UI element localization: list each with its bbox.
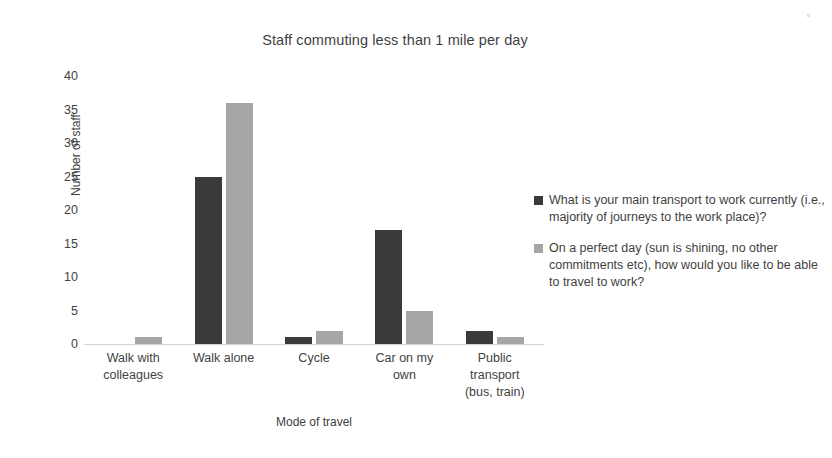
legend-item[interactable]: What is your main transport to work curr…: [534, 192, 826, 226]
x-axis-tick-line: (bus, train): [450, 384, 540, 401]
x-axis-tick-line: own: [359, 367, 449, 384]
legend-label: What is your main transport to work curr…: [549, 192, 826, 226]
bar-group: [269, 76, 359, 344]
y-axis-tick-25: 25: [44, 170, 78, 183]
x-axis-tick-label: Publictransport(bus, train): [450, 350, 540, 401]
y-axis-tick-30: 30: [44, 137, 78, 150]
bar: [466, 331, 493, 344]
bar: [497, 337, 524, 344]
chart-legend: What is your main transport to work curr…: [534, 192, 826, 305]
legend-item[interactable]: On a perfect day (sun is shining, no oth…: [534, 240, 826, 291]
bar: [135, 337, 162, 344]
x-axis-tick-line: transport: [450, 367, 540, 384]
bar: [226, 103, 253, 344]
y-axis-tick-5: 5: [44, 304, 78, 317]
y-axis-tick-35: 35: [44, 103, 78, 116]
x-axis-tick-line: Walk with: [88, 350, 178, 367]
y-axis-tick-40: 40: [44, 70, 78, 83]
plot-area: [88, 76, 540, 344]
legend-swatch-icon: [534, 244, 543, 253]
bar-group: [178, 76, 268, 344]
x-axis-tick-label: Walk alone: [178, 350, 268, 367]
x-axis-line: [84, 344, 544, 345]
legend-swatch-icon: [534, 196, 543, 205]
bar: [406, 311, 433, 345]
x-axis-tick-line: Car on my: [359, 350, 449, 367]
bar: [285, 337, 312, 344]
x-axis-tick-line: colleagues: [88, 367, 178, 384]
chart-title: Staff commuting less than 1 mile per day: [0, 32, 790, 48]
y-axis-tick-20: 20: [44, 204, 78, 217]
bar-group: [450, 76, 540, 344]
x-axis-tick-label: Walk withcolleagues: [88, 350, 178, 384]
y-axis-tick-15: 15: [44, 237, 78, 250]
bar-group: [88, 76, 178, 344]
bar: [316, 331, 343, 344]
y-axis-tick-0: 0: [44, 338, 78, 351]
bar-chart: Staff commuting less than 1 mile per day…: [0, 0, 832, 458]
x-axis-tick-line: Public: [450, 350, 540, 367]
legend-label: On a perfect day (sun is shining, no oth…: [549, 240, 826, 291]
x-axis-tick-line: Walk alone: [178, 350, 268, 367]
y-axis-tick-labels: 0510152025303540: [44, 60, 78, 350]
y-axis-tick-10: 10: [44, 271, 78, 284]
x-axis-tick-labels: Walk withcolleaguesWalk aloneCycleCar on…: [88, 350, 540, 412]
bar: [195, 177, 222, 345]
x-axis-tick-line: Cycle: [269, 350, 359, 367]
scan-artifact: [807, 14, 810, 17]
bar-group: [359, 76, 449, 344]
x-axis-tick-label: Cycle: [269, 350, 359, 367]
x-axis-tick-label: Car on myown: [359, 350, 449, 384]
bar: [375, 230, 402, 344]
x-axis-title: Mode of travel: [88, 415, 540, 429]
